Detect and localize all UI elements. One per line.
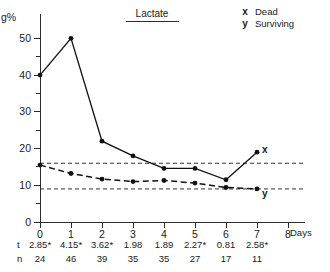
chart-svg: g% Lactate x Dead y Surviving 0102030405… (0, 0, 330, 272)
stats-cell-n: 11 (252, 253, 262, 264)
legend: x Dead y Surviving (242, 6, 294, 29)
stats-cell-t: 2.85* (29, 239, 51, 250)
stats-cell-n: 27 (190, 253, 201, 264)
series-line-dead (40, 38, 257, 179)
lactate-chart-figure: g% Lactate x Dead y Surviving 0102030405… (0, 0, 330, 272)
stats-cell-t: 2.58* (246, 239, 268, 250)
data-point-dead (69, 36, 74, 41)
y-axis-tick-label: 0 (25, 216, 31, 228)
stats-cell-t: 4.15* (60, 239, 82, 250)
legend-label-dead: Dead (255, 6, 278, 17)
data-point-dead (255, 150, 260, 155)
stats-cell-t: 1.89 (155, 239, 174, 250)
series-line-surviving (40, 165, 257, 189)
data-point-surviving (162, 178, 167, 183)
stats-cell-t: 0.81 (217, 239, 236, 250)
stats-cell-n: 46 (66, 253, 77, 264)
stats-cell-t: 3.62* (91, 239, 113, 250)
reference-lines (40, 163, 305, 189)
data-point-surviving (69, 171, 74, 176)
stats-row-label-n: n (17, 253, 22, 264)
series-end-label-surviving: y (262, 188, 268, 199)
legend-symbol-surviving: y (242, 18, 248, 29)
y-axis-ticks (34, 38, 40, 222)
data-point-dead (131, 153, 136, 158)
legend-label-surviving: Surviving (255, 18, 294, 29)
y-axis-tick-label: 10 (19, 179, 31, 191)
data-point-dead (100, 139, 105, 144)
data-point-dead (224, 177, 229, 182)
stats-cell-n: 35 (159, 253, 170, 264)
series-end-label-dead: x (262, 144, 268, 155)
x-axis-label: Days (290, 227, 312, 238)
chart-title: Lactate (136, 8, 169, 19)
data-point-surviving (224, 185, 229, 190)
data-point-surviving (193, 181, 198, 186)
stats-cell-n: 24 (35, 253, 46, 264)
stats-cell-t: 2.27* (184, 239, 206, 250)
data-point-surviving (100, 177, 105, 182)
stats-row-n-values: 2446393535271711 (35, 253, 262, 264)
stats-row-label-t: t (17, 239, 20, 250)
y-axis-unit-label: g% (1, 11, 16, 23)
data-point-dead (162, 166, 167, 171)
data-point-dead (193, 166, 198, 171)
data-point-surviving (131, 179, 136, 184)
stats-row-t-values: 2.85*4.15*3.62*1.981.892.27*0.812.58* (29, 239, 268, 250)
data-point-dead (38, 73, 43, 78)
y-axis-tick-label: 50 (19, 32, 31, 44)
stats-cell-t: 1.98 (124, 239, 143, 250)
data-point-surviving (38, 163, 43, 168)
y-axis-tick-label: 30 (19, 105, 31, 117)
data-series-layer (38, 36, 260, 191)
stats-cell-n: 35 (128, 253, 139, 264)
data-point-surviving (255, 187, 260, 192)
y-axis-tick-labels: 01020304050 (19, 32, 31, 228)
legend-symbol-dead: x (242, 6, 248, 17)
y-axis-tick-label: 20 (19, 142, 31, 154)
y-axis-tick-label: 40 (19, 69, 31, 81)
stats-cell-n: 39 (97, 253, 108, 264)
stats-cell-n: 17 (221, 253, 232, 264)
